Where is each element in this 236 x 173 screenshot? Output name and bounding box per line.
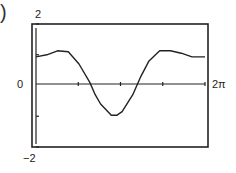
y-max-label: 2 [35, 9, 41, 20]
x-max-label: 2π [212, 79, 226, 90]
y-zero-label: 0 [17, 79, 23, 90]
line-chart [0, 0, 236, 173]
y-min-label: −2 [23, 153, 36, 164]
axis-ticks [36, 24, 205, 147]
